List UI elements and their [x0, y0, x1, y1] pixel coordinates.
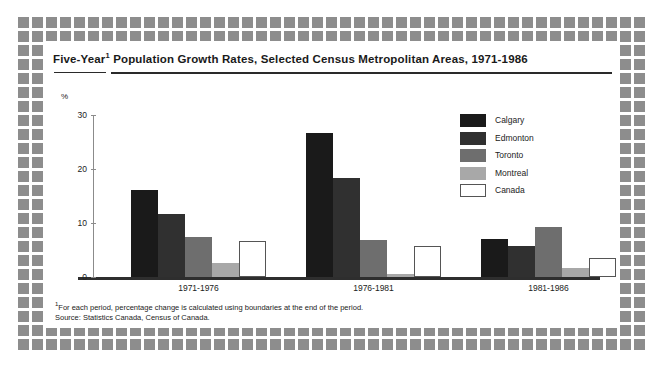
frame-tile	[620, 241, 631, 252]
bar-toronto-1971-1976	[185, 237, 212, 277]
frame-tile	[606, 339, 617, 350]
legend-swatch-canada	[460, 184, 486, 197]
frame-tile	[340, 339, 351, 350]
frame-tile	[634, 87, 645, 98]
frame-tile	[60, 339, 71, 350]
frame-tile	[284, 339, 295, 350]
frame-tile	[620, 199, 631, 210]
frame-tile	[620, 87, 631, 98]
frame-tile	[620, 129, 631, 140]
frame-tile	[18, 199, 29, 210]
frame-tile	[88, 17, 99, 28]
frame-tile	[634, 45, 645, 56]
legend-label: Edmonton	[495, 133, 534, 143]
frame-tile	[382, 339, 393, 350]
frame-tile	[536, 339, 547, 350]
frame-tile	[32, 171, 43, 182]
frame-tile	[32, 59, 43, 70]
frame-tile	[508, 339, 519, 350]
x-axis-label-1971-1976: 1971-1976	[131, 283, 266, 293]
frame-tile	[18, 45, 29, 56]
bar-calgary-1976-1981	[306, 133, 333, 277]
legend-label: Calgary	[495, 115, 524, 125]
frame-tile	[466, 17, 477, 28]
frame-tile	[200, 339, 211, 350]
y-axis-tick	[91, 277, 96, 278]
frame-tile	[634, 339, 645, 350]
frame-tile	[634, 325, 645, 336]
frame-tile	[592, 17, 603, 28]
frame-tile	[634, 283, 645, 294]
frame-tile	[634, 59, 645, 70]
frame-tile	[18, 339, 29, 350]
frame-tile	[438, 17, 449, 28]
frame-tile	[18, 17, 29, 28]
frame-tile	[32, 129, 43, 140]
frame-tile	[634, 199, 645, 210]
frame-tile	[32, 213, 43, 224]
frame-tile	[32, 31, 43, 42]
frame-tile	[32, 241, 43, 252]
frame-tile	[634, 255, 645, 266]
chart-card: Five-Year1 Population Growth Rates, Sele…	[43, 41, 619, 328]
bar-calgary-1971-1976	[131, 190, 158, 277]
frame-tile	[424, 17, 435, 28]
frame-tile	[480, 339, 491, 350]
frame-tile	[634, 115, 645, 126]
frame-tile	[242, 339, 253, 350]
frame-tile	[340, 17, 351, 28]
frame-tile	[32, 73, 43, 84]
frame-tile	[634, 185, 645, 196]
frame-tile	[522, 17, 533, 28]
bar-calgary-1981-1986	[481, 239, 508, 277]
frame-tile	[550, 339, 561, 350]
frame-tile	[158, 339, 169, 350]
frame-tile	[46, 339, 57, 350]
frame-tile	[494, 339, 505, 350]
frame-tile	[130, 17, 141, 28]
frame-tile	[18, 101, 29, 112]
frame-tile	[578, 339, 589, 350]
frame-tile	[18, 157, 29, 168]
frame-tile	[312, 339, 323, 350]
frame-tile	[228, 339, 239, 350]
frame-tile	[18, 59, 29, 70]
frame-tile	[32, 45, 43, 56]
frame-tile	[18, 185, 29, 196]
frame-tile	[536, 17, 547, 28]
frame-tile	[144, 339, 155, 350]
frame-tile	[480, 17, 491, 28]
frame-tile	[116, 339, 127, 350]
frame-tile	[242, 17, 253, 28]
frame-tile	[200, 17, 211, 28]
frame-tile	[18, 255, 29, 266]
footnote-line-2: Source: Statistics Canada, Census of Can…	[55, 313, 363, 324]
frame-tile	[18, 115, 29, 126]
frame-tile	[18, 269, 29, 280]
frame-tile	[620, 171, 631, 182]
frame-tile	[382, 17, 393, 28]
frame-tile	[620, 255, 631, 266]
bar-edmonton-1981-1986	[508, 246, 535, 277]
frame-tile	[368, 17, 379, 28]
frame-tile	[620, 73, 631, 84]
frame-tile	[634, 73, 645, 84]
frame-tile	[186, 339, 197, 350]
frame-tile	[508, 17, 519, 28]
frame-tile	[32, 255, 43, 266]
bar-canada-1971-1976	[239, 241, 266, 277]
frame-tile	[452, 17, 463, 28]
frame-tile	[32, 297, 43, 308]
bar-canada-1981-1986	[589, 258, 616, 277]
frame-tile	[620, 213, 631, 224]
frame-tile	[18, 213, 29, 224]
frame-tile	[298, 339, 309, 350]
frame-tile	[620, 17, 631, 28]
frame-tile	[116, 17, 127, 28]
frame-tile	[102, 339, 113, 350]
frame-tile	[634, 143, 645, 154]
bar-canada-1976-1981	[414, 246, 441, 277]
frame-tile	[18, 283, 29, 294]
frame-tile	[606, 17, 617, 28]
frame-tile	[284, 17, 295, 28]
